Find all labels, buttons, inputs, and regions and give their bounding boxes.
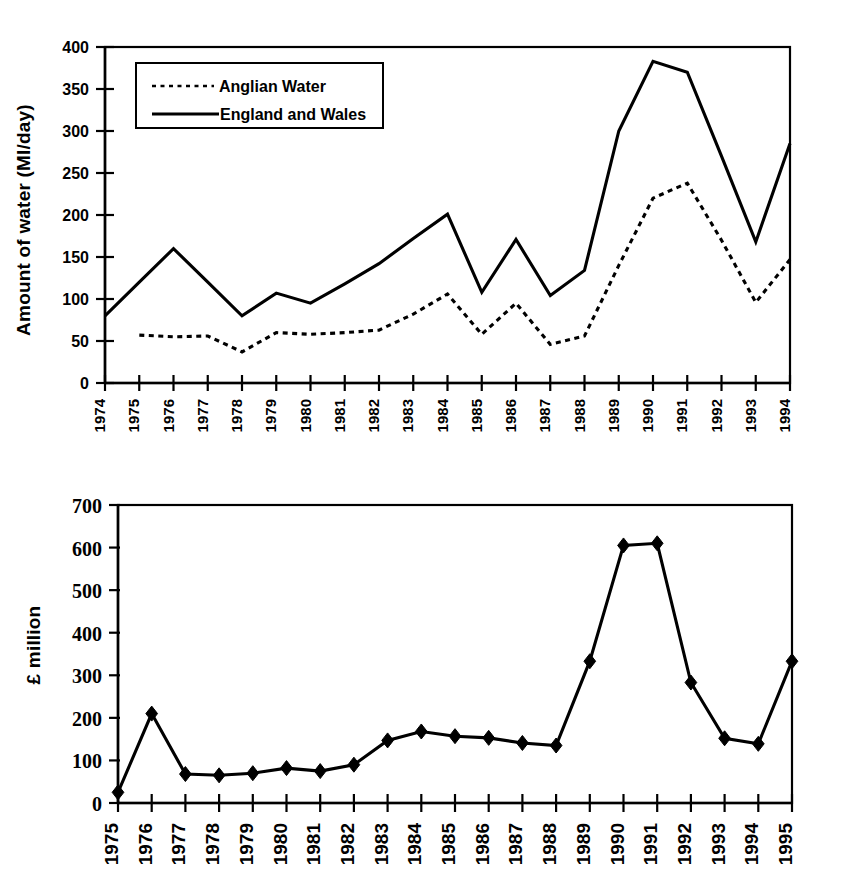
x-tick-label: 1983	[399, 399, 416, 432]
y-tick-label: 150	[62, 249, 89, 266]
x-tick-label: 1981	[303, 823, 324, 866]
y-tick-label: 400	[72, 623, 102, 645]
x-tick-label: 1978	[228, 399, 245, 432]
x-tick-label: 1990	[639, 399, 656, 432]
bottom-chart-plot-frame	[118, 505, 792, 803]
x-tick-label: 1989	[573, 823, 594, 865]
data-point-marker	[247, 766, 259, 781]
y-tick-label: 100	[72, 750, 102, 772]
x-tick-label: 1992	[674, 823, 695, 865]
data-point-marker	[112, 785, 124, 800]
x-tick-label: 1992	[708, 399, 725, 432]
x-tick-label: 1993	[708, 823, 729, 865]
y-tick-label: 500	[72, 580, 102, 602]
y-tick-label: 300	[62, 123, 89, 140]
x-tick-label: 1982	[337, 823, 358, 865]
x-tick-label: 1981	[331, 399, 348, 432]
top-chart-svg: Amount of water (Ml/day)	[0, 0, 847, 470]
x-tick-label: 1976	[160, 399, 177, 432]
x-tick-label: 1993	[742, 399, 759, 432]
x-tick-label: 1979	[262, 399, 279, 432]
data-point-marker	[382, 733, 394, 748]
data-point-marker	[348, 757, 360, 772]
bottom-chart-y-axis-title: £ million	[23, 606, 44, 685]
data-point-marker	[213, 768, 225, 783]
x-tick-label: 1991	[673, 399, 690, 432]
bottom-chart-series-group	[112, 536, 798, 800]
y-tick-label: 100	[62, 291, 89, 308]
data-point-marker	[415, 724, 427, 739]
y-tick-label: 200	[62, 207, 89, 224]
bottom-chart-markers	[112, 536, 798, 800]
bottom-chart-y-axis	[109, 505, 120, 803]
x-tick-label: 1986	[502, 399, 519, 432]
x-tick-label: 1978	[202, 823, 223, 865]
x-tick-label: 1974	[91, 398, 108, 432]
data-point-marker	[314, 764, 326, 779]
bottom-chart-svg: £ million 0100200300400500600700 1975197…	[0, 460, 847, 891]
x-tick-label: 1980	[270, 823, 291, 865]
x-tick-label: 1977	[194, 399, 211, 432]
bottom-chart-panel: £ million 0100200300400500600700 1975197…	[0, 460, 847, 891]
x-tick-label: 1987	[505, 823, 526, 865]
x-tick-label: 1986	[472, 823, 493, 865]
x-tick-label: 1975	[125, 399, 142, 432]
top-chart-x-axis	[105, 375, 790, 391]
x-tick-label: 1989	[605, 399, 622, 432]
x-tick-label: 1985	[438, 823, 459, 866]
x-tick-label: 1987	[536, 399, 553, 432]
series-capital-expenditure	[118, 543, 792, 792]
x-tick-label: 1985	[468, 399, 485, 432]
y-tick-label: 400	[62, 39, 89, 56]
x-tick-label: 1995	[775, 823, 796, 866]
data-point-marker	[550, 738, 562, 753]
y-tick-label: 350	[62, 81, 89, 98]
y-tick-label: 50	[71, 333, 89, 350]
y-tick-label: 300	[72, 665, 102, 687]
data-point-marker	[786, 654, 798, 669]
data-point-marker	[449, 729, 461, 744]
legend-label-england-and-wales: England and Wales	[220, 106, 366, 123]
data-point-marker	[651, 536, 663, 551]
two-panel-line-chart-figure: Amount of water (Ml/day)	[0, 0, 847, 891]
y-tick-label: 0	[92, 793, 102, 815]
x-tick-label: 1994	[741, 823, 762, 866]
x-tick-label: 1979	[236, 823, 257, 865]
x-tick-label: 1984	[404, 823, 425, 866]
series-anglian-water	[139, 183, 790, 352]
x-tick-label: 1984	[434, 398, 451, 432]
legend-label-anglian-water: Anglian Water	[219, 78, 326, 95]
data-point-marker	[281, 761, 293, 776]
data-point-marker	[584, 654, 596, 669]
x-tick-label: 1976	[135, 823, 156, 865]
y-tick-label: 0	[80, 375, 89, 392]
x-tick-label: 1983	[371, 823, 392, 865]
top-chart-y-axis-title: Amount of water (Ml/day)	[13, 104, 34, 336]
x-tick-label: 1988	[571, 399, 588, 432]
x-tick-label: 1994	[776, 398, 793, 432]
x-tick-label: 1991	[640, 823, 661, 866]
bottom-chart-x-axis	[118, 794, 792, 812]
x-tick-label: 1977	[168, 823, 189, 865]
x-tick-label: 1975	[101, 823, 122, 866]
top-chart-panel: Amount of water (Ml/day)	[0, 0, 847, 470]
y-tick-label: 600	[72, 538, 102, 560]
y-tick-label: 700	[72, 495, 102, 517]
x-tick-label: 1988	[539, 823, 560, 865]
y-tick-label: 250	[62, 165, 89, 182]
data-point-marker	[483, 730, 495, 745]
x-tick-label: 1990	[607, 823, 628, 865]
x-tick-label: 1982	[365, 399, 382, 432]
y-tick-label: 200	[72, 708, 102, 730]
top-chart-y-axis	[96, 47, 114, 383]
x-tick-label: 1980	[297, 399, 314, 432]
data-point-marker	[752, 736, 764, 751]
data-point-marker	[618, 538, 630, 553]
data-point-marker	[517, 735, 529, 750]
top-chart-legend: Anglian Water England and Wales	[136, 63, 383, 128]
